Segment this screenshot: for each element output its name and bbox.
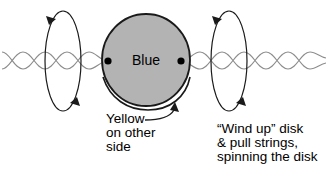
yellow-caption-line-2: on other [106,126,156,140]
windup-caption-line-3: spinning the disk [217,150,318,164]
windup-caption-line-1: “Wind up” disk [217,122,318,136]
diagram-canvas: Blue Yellow on other side “Wind up” disk… [0,0,328,180]
windup-caption-line-2: & pull strings, [217,136,318,150]
windup-caption: “Wind up” disk & pull strings, spinning … [217,122,318,164]
yellow-caption-line-3: side [106,140,156,154]
yellow-caption-line-1: Yellow [106,112,156,126]
disk-color-label: Blue [0,53,292,67]
yellow-caption: Yellow on other side [106,112,156,154]
